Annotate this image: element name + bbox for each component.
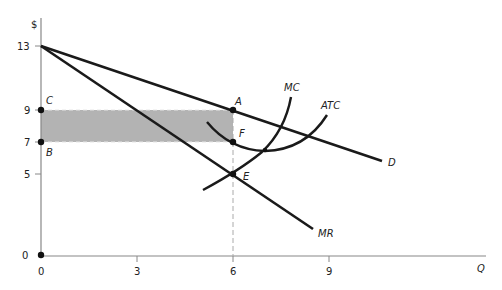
label-c: C [46, 95, 53, 106]
y-tick-7: 7 [24, 137, 30, 148]
label-d: D [388, 157, 396, 168]
label-a: A [234, 96, 242, 107]
point-mc-atc-min [263, 148, 267, 152]
y-axis-label: $ [31, 19, 37, 30]
profit-area [41, 110, 233, 142]
x-tick-9: 9 [326, 266, 332, 277]
point-origin [38, 252, 44, 258]
y-tick-5: 5 [24, 169, 30, 180]
label-mr: MR [318, 228, 334, 239]
point-c [38, 107, 44, 113]
label-b: B [46, 147, 53, 158]
monopoly-profit-chart: $ 13 9 7 5 0 0 3 6 9 Q A F E C B MC ATC … [0, 0, 502, 290]
x-axis-label: Q [477, 263, 485, 274]
label-mc: MC [284, 82, 300, 93]
label-atc: ATC [320, 100, 340, 111]
y-tick-0: 0 [22, 250, 28, 261]
point-a [230, 107, 236, 113]
y-tick-9: 9 [24, 105, 30, 116]
point-b [38, 139, 44, 145]
point-e [230, 171, 236, 177]
x-tick-0: 0 [38, 266, 44, 277]
point-f [230, 139, 236, 145]
x-tick-3: 3 [134, 266, 140, 277]
label-e: E [243, 171, 250, 182]
label-f: F [239, 128, 245, 139]
y-tick-13: 13 [17, 41, 30, 52]
x-tick-6: 6 [230, 266, 236, 277]
